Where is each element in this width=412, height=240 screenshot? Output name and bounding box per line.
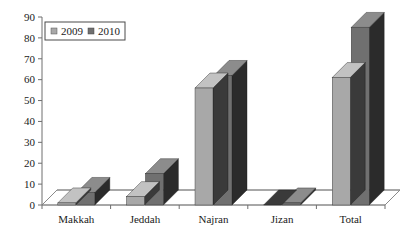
- bar-2009-najran: [195, 73, 228, 205]
- bar-2010-total-side: [369, 12, 384, 205]
- y-tick-label: 10: [24, 178, 36, 190]
- category-label-najran: Najran: [199, 213, 229, 225]
- y-tick-label: 70: [24, 53, 36, 65]
- y-axis: 0102030405060708090: [24, 11, 42, 211]
- bar-2009-total-side: [350, 63, 365, 205]
- y-tick-label: 0: [30, 199, 36, 211]
- y-tick-label: 30: [24, 136, 36, 148]
- floor-right-edge: [385, 190, 400, 205]
- y-tick-label: 60: [24, 73, 36, 85]
- y-tick-label: 50: [24, 94, 36, 106]
- category-label-total: Total: [339, 213, 361, 225]
- legend-label-2010: 2010: [98, 25, 121, 37]
- bar-2009-najran-side: [213, 73, 228, 205]
- bar-chart: 0102030405060708090 MakkahJeddahNajranJi…: [0, 0, 412, 240]
- bar-2009-najran-face: [195, 88, 213, 205]
- legend-label-2009: 2009: [61, 25, 84, 37]
- y-tick-label: 40: [24, 115, 36, 127]
- category-label-jeddah: Jeddah: [130, 213, 161, 225]
- legend-swatch-2009-icon: [51, 28, 57, 34]
- bars-group: [58, 12, 384, 205]
- y-tick-label: 20: [24, 157, 36, 169]
- chart-canvas: 0102030405060708090 MakkahJeddahNajranJi…: [0, 0, 412, 240]
- y-tick-label: 90: [24, 11, 36, 23]
- category-label-jizan: Jizan: [271, 213, 294, 225]
- chart-legend: 2009 2010: [45, 22, 125, 40]
- y-tick-label: 80: [24, 32, 36, 44]
- bar-2009-total: [332, 63, 365, 205]
- category-label-group: MakkahJeddahNajranJizanTotal: [58, 213, 362, 225]
- bar-2010-jizan-face: [283, 203, 301, 205]
- bar-2009-total-face: [332, 78, 350, 205]
- bar-2010-najran-side: [232, 60, 247, 205]
- y-tick-group: 0102030405060708090: [24, 11, 42, 211]
- category-label-makkah: Makkah: [58, 213, 95, 225]
- x-axis-tick-group: [42, 205, 385, 209]
- floor-left-edge: [42, 190, 57, 205]
- legend-swatch-2010-icon: [88, 28, 94, 34]
- bar-2009-jeddah-face: [126, 197, 144, 205]
- bar-2009-makkah-face: [58, 203, 76, 205]
